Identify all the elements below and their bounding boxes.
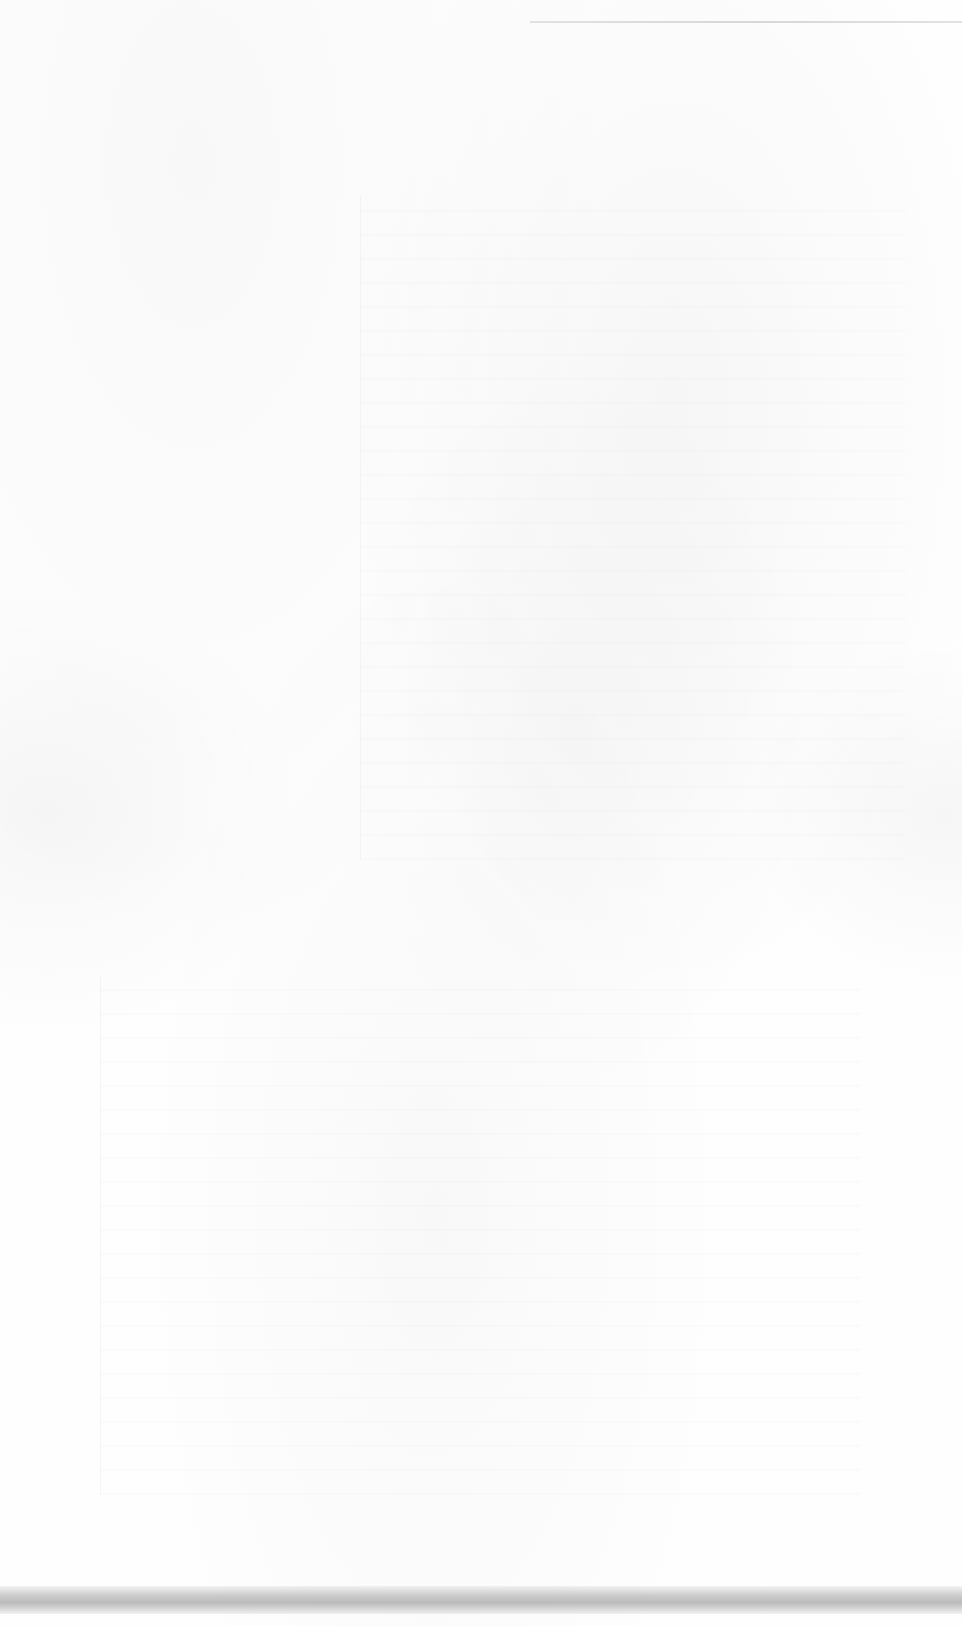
bleed-through-region-upper xyxy=(360,195,906,860)
scanner-edge-band xyxy=(0,1586,962,1614)
bleed-through-region-lower xyxy=(100,975,861,1495)
scanned-blank-page xyxy=(0,0,962,1626)
top-rule-line xyxy=(530,21,962,23)
